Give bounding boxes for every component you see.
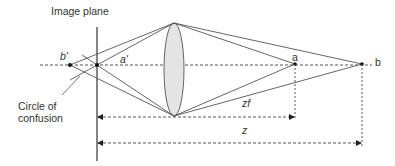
lens <box>164 23 184 116</box>
point-b-prime <box>68 63 72 67</box>
point-a-prime <box>95 63 99 67</box>
b-label: b <box>375 56 381 68</box>
zf-label: zf <box>241 97 251 109</box>
image-plane-label: Image plane <box>51 5 109 17</box>
b-prime-label: b' <box>60 50 69 62</box>
a-prime-label: a' <box>120 53 129 65</box>
circle-of-confusion-label-line2: confusion <box>18 112 63 124</box>
circle-of-confusion-pointer <box>62 76 80 95</box>
circle-of-confusion-label-line1: Circle of <box>18 100 57 112</box>
lens-diagram: Image plane b' a' a b Circle of confusio… <box>0 0 395 166</box>
rays-object-side <box>174 23 362 116</box>
rays-image-side <box>70 23 174 116</box>
z-label: z <box>241 124 248 136</box>
a-label: a <box>292 51 298 63</box>
